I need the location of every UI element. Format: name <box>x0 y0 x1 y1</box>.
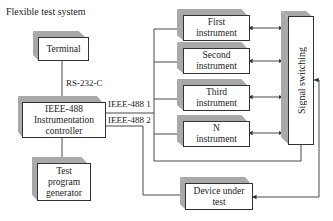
generator-line-2: program <box>48 177 80 188</box>
signal-switching-label: Signal switching <box>296 47 307 114</box>
dut-line-2: test <box>212 197 225 208</box>
ieee488-1-label: IEEE-488 1 <box>108 99 151 109</box>
third-instrument-line-1: Third <box>206 87 227 98</box>
dut-line-1: Device under <box>194 186 245 197</box>
n-instrument-line-2: instrument <box>196 134 237 145</box>
generator-line-1: Test <box>56 166 72 177</box>
first-instrument-block: First instrument <box>177 9 250 41</box>
device-under-test-block: Device under test <box>180 177 253 210</box>
third-instrument-line-2: instrument <box>196 98 237 109</box>
second-instrument-line-1: Second <box>203 50 231 61</box>
signal-switching-block: Signal switching <box>281 11 315 145</box>
n-instrument-line-1: N <box>213 123 220 134</box>
first-instrument-line-2: instrument <box>196 28 237 39</box>
test-program-generator-block: Test program generator <box>32 157 91 201</box>
terminal-label: Terminal <box>46 44 80 55</box>
second-instrument-line-2: instrument <box>196 61 237 72</box>
rs232-label: RS-232-C <box>66 78 103 88</box>
generator-line-3: generator <box>46 188 82 199</box>
second-instrument-block: Second instrument <box>177 42 250 74</box>
controller-line-1: IEEE-488 <box>45 104 83 115</box>
diagram-title: Flexible test system <box>6 6 85 17</box>
n-instrument-block: N instrument <box>177 115 250 147</box>
ieee488-2-label: IEEE-488 2 <box>108 115 151 125</box>
instrumentation-controller-block: IEEE-488 Instrumentation controller <box>18 96 106 138</box>
third-instrument-block: Third instrument <box>177 79 250 111</box>
first-instrument-line-1: First <box>208 17 225 28</box>
controller-line-2: Instrumentation <box>34 115 94 126</box>
terminal-block: Terminal <box>33 31 89 61</box>
controller-line-3: controller <box>46 126 83 137</box>
